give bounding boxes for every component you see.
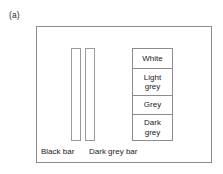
panel-label: (a): [9, 10, 20, 20]
legend-row-dark-grey: Dark grey: [133, 115, 172, 140]
diagram-frame: White Light grey Grey Dark grey Black ba…: [36, 26, 212, 163]
legend-row-white: White: [133, 49, 172, 69]
black-bar-shape: [71, 48, 81, 141]
black-bar-caption: Black bar: [41, 147, 74, 157]
dark-grey-bar-caption: Dark grey bar: [89, 147, 137, 157]
dark-grey-bar-shape: [85, 48, 95, 141]
legend-row-light-grey: Light grey: [133, 69, 172, 96]
legend-row-grey: Grey: [133, 96, 172, 115]
legend-table: White Light grey Grey Dark grey: [132, 48, 173, 141]
figure-panel: (a) White Light grey Grey Dark grey Blac…: [0, 0, 223, 174]
